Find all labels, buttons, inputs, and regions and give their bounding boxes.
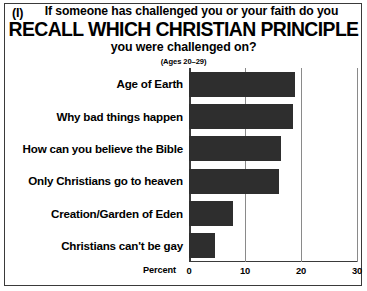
bar [189, 201, 233, 226]
category-label: Only Christians go to heaven [8, 174, 183, 187]
category-label: Creation/Garden of Eden [8, 207, 183, 220]
x-axis-line [189, 261, 357, 263]
table-row [189, 136, 281, 161]
bar-chart: Age of EarthWhy bad things happenHow can… [0, 0, 367, 291]
category-label: How can you believe the Bible [8, 142, 183, 155]
bar [189, 72, 295, 97]
category-label: Christians can't be gay [8, 239, 183, 252]
bar [189, 233, 215, 258]
gridline-10 [245, 68, 246, 262]
bar [189, 104, 293, 129]
bar [189, 169, 279, 194]
category-label: Age of Earth [8, 77, 183, 90]
x-tick-label-30: 30 [352, 265, 362, 276]
table-row [189, 169, 279, 194]
category-label: Why bad things happen [8, 110, 183, 123]
gridline-30 [357, 68, 358, 262]
figure: (I) If someone has challenged you or you… [0, 0, 367, 291]
table-row [189, 72, 295, 97]
x-tick-label-10: 10 [240, 265, 250, 276]
table-row [189, 104, 293, 129]
x-tick-label-0: 0 [186, 265, 191, 276]
plot-area [189, 68, 357, 262]
gridline-20 [301, 68, 302, 262]
x-tick-label-20: 20 [296, 265, 306, 276]
bar [189, 136, 281, 161]
x-axis-label: Percent [143, 265, 176, 275]
table-row [189, 201, 233, 226]
table-row [189, 233, 215, 258]
